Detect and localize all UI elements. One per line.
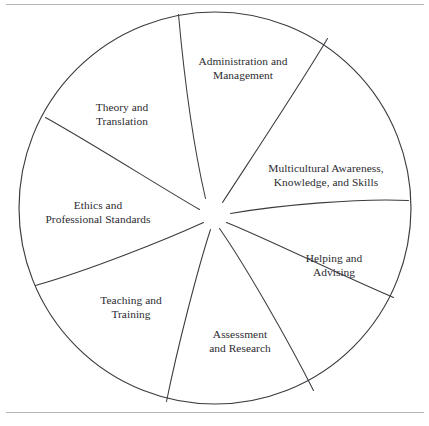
segment-label-assessment-and-research: Assessmentand Research <box>209 327 271 355</box>
segment-divider-8 <box>46 118 200 210</box>
segment-label-multicultural-awareness-knowledge-and-skills: Multicultural Awareness,Knowledge, and S… <box>268 161 383 189</box>
segment-divider-5 <box>220 229 314 391</box>
segment-label-line: Multicultural Awareness, <box>268 161 383 175</box>
segment-label-line: Theory and <box>96 100 149 114</box>
segment-label-teaching-and-training: Teaching andTraining <box>100 293 161 321</box>
segment-divider-3 <box>231 200 409 214</box>
segment-label-line: and Research <box>209 341 271 355</box>
bottom-divider-rule <box>6 412 424 413</box>
figure-root: Administration andManagementMulticultura… <box>0 0 429 426</box>
segment-label-line: Administration and <box>198 54 287 68</box>
segment-label-line: Helping and <box>306 251 363 265</box>
segment-divider-7 <box>36 223 204 286</box>
segment-label-line: Assessment <box>209 327 271 341</box>
segment-label-line: Advising <box>306 265 363 279</box>
segment-label-line: Professional Standards <box>45 212 150 226</box>
segment-label-helping-and-advising: Helping andAdvising <box>306 251 363 279</box>
segment-label-line: Knowledge, and Skills <box>268 175 383 189</box>
segment-label-line: Translation <box>96 114 149 128</box>
segment-label-line: Training <box>100 307 161 321</box>
segment-label-line: Teaching and <box>100 293 161 307</box>
segment-label-line: Ethics and <box>45 198 150 212</box>
segment-label-ethics-and-professional-standards: Ethics andProfessional Standards <box>45 198 150 226</box>
segment-divider-1 <box>179 15 206 199</box>
segment-divider-6 <box>167 230 211 402</box>
segment-label-line: Management <box>198 68 287 82</box>
segment-label-administration-and-management: Administration andManagement <box>198 54 287 82</box>
segment-label-theory-and-translation: Theory andTranslation <box>96 100 149 128</box>
